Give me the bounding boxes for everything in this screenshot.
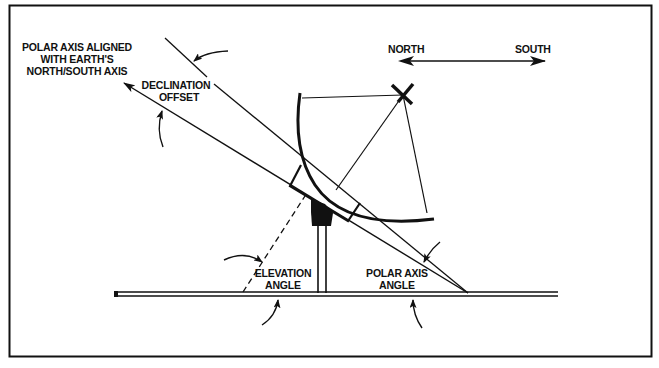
svg-text:ANGLE: ANGLE <box>265 279 301 291</box>
polar-mount-diagram: NORTH SOUTH POLAR AXIS ALIGNED WITH EART… <box>0 0 659 368</box>
declination-pointer-lower-icon <box>159 111 163 147</box>
polar-axis-angle-label: POLAR AXIS ANGLE <box>366 267 428 291</box>
polar-axis-aligned-label: POLAR AXIS ALIGNED WITH EARTH'S NORTH/SO… <box>22 41 133 77</box>
svg-text:POLAR AXIS ALIGNED: POLAR AXIS ALIGNED <box>22 41 133 53</box>
feed-horn-icon <box>392 84 413 104</box>
feed-strut-top <box>302 95 403 98</box>
svg-text:POLAR AXIS: POLAR AXIS <box>366 267 428 279</box>
offset-line-lower-segment <box>214 84 468 293</box>
declination-pointer-upper-icon <box>194 51 228 61</box>
svg-text:DECLINATION: DECLINATION <box>142 79 211 91</box>
north-label: NORTH <box>388 43 424 55</box>
elevation-pointer-upper-icon <box>224 255 262 262</box>
feed-strut-bottom <box>403 95 427 213</box>
svg-text:ELEVATION: ELEVATION <box>255 267 312 279</box>
polar-angle-pointer-lower-icon <box>413 300 422 328</box>
feed-strut-center <box>336 95 403 190</box>
elevation-pointer-lower-icon <box>262 300 278 325</box>
svg-text:NORTH/SOUTH AXIS: NORTH/SOUTH AXIS <box>27 65 128 77</box>
elevation-angle-label: ELEVATION ANGLE <box>255 267 312 291</box>
svg-text:WITH EARTH'S: WITH EARTH'S <box>40 53 113 65</box>
svg-text:ANGLE: ANGLE <box>379 279 415 291</box>
polar-axis-line <box>124 83 468 293</box>
mount-head <box>311 199 333 226</box>
ground-line <box>114 291 558 297</box>
north-south-indicator: NORTH SOUTH <box>388 43 551 66</box>
south-label: SOUTH <box>515 43 551 55</box>
polar-angle-pointer-upper-icon <box>424 242 440 262</box>
svg-text:OFFSET: OFFSET <box>159 91 200 103</box>
